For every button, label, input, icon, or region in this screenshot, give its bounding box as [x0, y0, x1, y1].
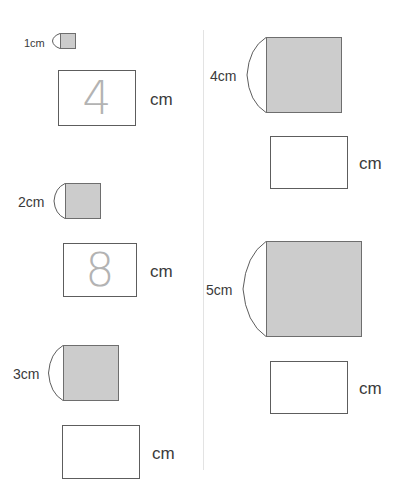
shaded-square — [266, 37, 342, 113]
measure-brace-icon — [46, 345, 64, 401]
shaded-square — [65, 183, 101, 219]
side-length-label: 4cm — [210, 69, 236, 83]
answer-value — [271, 137, 347, 188]
unit-label: cm — [150, 91, 173, 108]
side-length-label: 2cm — [18, 195, 44, 209]
answer-value: 4 — [59, 71, 135, 125]
side-length-label: 5cm — [206, 283, 232, 297]
worksheet-sheet: 1cm 4 cm 2cm 8 cm — [0, 0, 416, 484]
answer-value: 8 — [64, 244, 136, 296]
measure-brace-icon — [52, 183, 66, 219]
side-length-label: 3cm — [13, 367, 39, 381]
measure-brace-icon — [244, 37, 267, 113]
answer-box[interactable]: 4 — [58, 70, 136, 126]
answer-box[interactable] — [270, 136, 348, 189]
unit-label: cm — [150, 263, 173, 280]
column-divider — [203, 30, 204, 470]
shaded-square — [60, 33, 76, 49]
answer-value — [271, 362, 347, 413]
shaded-square — [63, 345, 119, 401]
unit-label: cm — [152, 445, 175, 462]
answer-box[interactable] — [62, 425, 140, 479]
answer-box[interactable]: 8 — [63, 243, 137, 297]
measure-brace-icon — [51, 33, 61, 49]
unit-label: cm — [359, 155, 382, 172]
answer-value — [63, 426, 139, 478]
unit-label: cm — [359, 380, 382, 397]
answer-box[interactable] — [270, 361, 348, 414]
side-length-label: 1cm — [24, 38, 45, 49]
measure-brace-icon — [240, 241, 267, 337]
shaded-square — [266, 241, 362, 337]
